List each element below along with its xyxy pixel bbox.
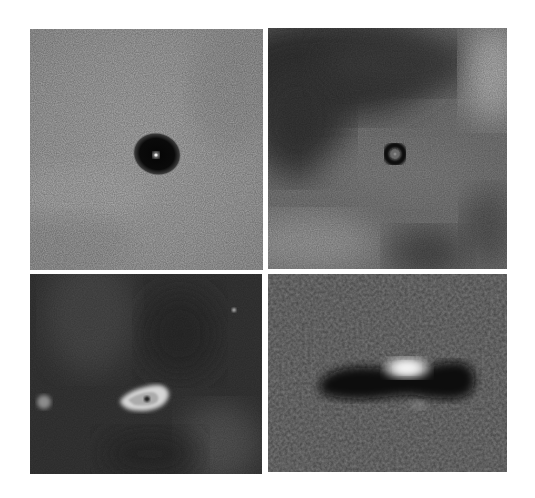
- edge-on-disk-image: [268, 274, 507, 472]
- panel-top-right: Small dark ring silhouette with faint ce…: [268, 28, 507, 269]
- silhouette-ring-image: [268, 28, 507, 269]
- bright-crescent-image: [30, 274, 262, 474]
- point-star: [232, 308, 236, 312]
- panel-bottom-left: Bright crescent-shaped object with dark …: [30, 274, 262, 474]
- panel-top-left: Dark oval silhouette disk with bright ce…: [30, 29, 263, 270]
- diffuse-blob: [37, 395, 51, 409]
- silhouette-disk-image: [30, 29, 263, 270]
- dark-spot: [144, 396, 150, 402]
- image-figure: Dark oval silhouette disk with bright ce…: [0, 0, 535, 498]
- panel-bottom-right: Edge-on dark disk silhouette with bright…: [268, 274, 507, 472]
